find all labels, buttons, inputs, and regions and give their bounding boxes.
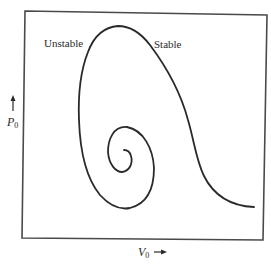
y-axis-subscript: 0	[14, 121, 18, 130]
up-arrow-head-icon	[11, 95, 16, 101]
right-arrow-head-icon	[161, 250, 167, 255]
stable-label: Stable	[154, 38, 182, 50]
x-axis-label: V0	[138, 245, 167, 260]
spiral-curve	[79, 26, 254, 208]
spiral-stability-diagram: Unstable Stable P0 V0	[0, 0, 271, 266]
svg-text:V0: V0	[138, 245, 149, 260]
y-axis-label: P0	[6, 95, 18, 130]
x-axis-subscript: 0	[145, 251, 149, 260]
unstable-label: Unstable	[44, 37, 83, 49]
svg-text:P0: P0	[6, 115, 18, 130]
